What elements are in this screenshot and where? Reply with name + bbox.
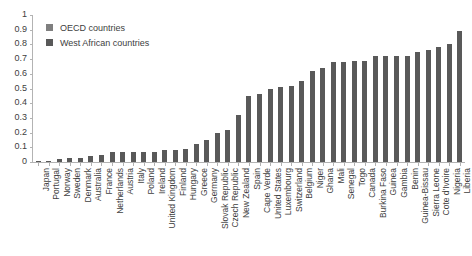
bar-slot <box>286 15 297 162</box>
bar[interactable] <box>394 56 399 162</box>
bar-slot <box>191 15 202 162</box>
bar[interactable] <box>131 152 136 162</box>
bar[interactable] <box>268 89 273 163</box>
x-axis-tick-mark <box>91 163 92 166</box>
bar[interactable] <box>341 62 346 162</box>
x-axis-tick-label: Sweden <box>73 168 82 199</box>
x-axis-tick-mark <box>333 163 334 166</box>
x-axis-tick-mark <box>70 163 71 166</box>
bar[interactable] <box>120 152 125 162</box>
x-axis-tick-label: Niger <box>316 168 325 188</box>
y-axis-tick-label: 0.1 <box>14 141 27 152</box>
x-axis-tick-label: Slovak Republic <box>221 168 230 229</box>
bar-slot <box>223 15 234 162</box>
bar[interactable] <box>257 94 262 162</box>
bar[interactable] <box>447 44 452 162</box>
x-axis-tick-mark <box>38 163 39 166</box>
x-axis-tick-label: Spain <box>253 168 262 190</box>
legend-item[interactable]: OECD countries <box>46 20 149 35</box>
x-axis-tick-label: Guinea <box>389 168 398 195</box>
bar-slot <box>423 15 434 162</box>
legend-swatch-icon <box>46 24 53 31</box>
x-axis-tick-label: Mali <box>337 168 346 184</box>
bar[interactable] <box>373 56 378 162</box>
x-axis-tick-mark <box>439 163 440 166</box>
x-axis-tick-label: Sierra Leone <box>432 168 441 217</box>
bar[interactable] <box>278 87 283 162</box>
x-axis-tick-label: Guinea-Bissau <box>421 168 430 224</box>
x-axis-tick-mark <box>281 163 282 166</box>
bar[interactable] <box>436 47 441 162</box>
x-axis-tick-label: United States <box>274 168 283 219</box>
x-axis-tick-label: Nigeria <box>453 168 462 195</box>
x-axis-tick-mark <box>365 163 366 166</box>
bar[interactable] <box>225 130 230 162</box>
x-axis-tick-mark <box>312 163 313 166</box>
bar[interactable] <box>46 161 51 162</box>
y-axis-tick-label: 0.2 <box>14 127 27 138</box>
bar[interactable] <box>362 61 367 162</box>
bar[interactable] <box>36 161 41 162</box>
x-axis-tick-label: New Zealand <box>242 168 251 218</box>
bar[interactable] <box>236 115 241 162</box>
legend-swatch-icon <box>46 39 53 46</box>
bar[interactable] <box>289 86 294 162</box>
y-axis-tick-label: 1 <box>22 9 27 20</box>
bar[interactable] <box>352 61 357 162</box>
y-axis-tick-label: 0.9 <box>14 24 27 35</box>
x-axis-tick-mark <box>354 163 355 166</box>
x-axis-tick-mark <box>165 163 166 166</box>
x-axis-tick-label: United Kingdom <box>168 168 177 228</box>
x-axis-tick-label: Portugal <box>52 168 61 200</box>
bar[interactable] <box>426 50 431 162</box>
bar[interactable] <box>204 140 209 162</box>
y-axis-tick-label: 0.5 <box>14 83 27 94</box>
x-axis-tick-mark <box>270 163 271 166</box>
x-axis-tick-mark <box>186 163 187 166</box>
bar[interactable] <box>405 56 410 162</box>
x-axis-tick-label: Liberia <box>463 168 472 194</box>
bar[interactable] <box>331 62 336 162</box>
x-axis-tick-mark <box>375 163 376 166</box>
bar[interactable] <box>141 152 146 162</box>
bar[interactable] <box>183 149 188 162</box>
y-axis-tick-label: 0.7 <box>14 53 27 64</box>
x-axis-tick-label: Australia <box>94 168 103 201</box>
x-axis-tick-mark <box>407 163 408 166</box>
bar-slot <box>254 15 265 162</box>
x-axis-tick-mark <box>123 163 124 166</box>
bar[interactable] <box>383 56 388 162</box>
x-axis-tick-label: Netherlands <box>116 168 125 214</box>
bar[interactable] <box>88 156 93 162</box>
bar[interactable] <box>99 155 104 162</box>
x-axis-tick-mark <box>101 163 102 166</box>
x-axis-tick-mark <box>449 163 450 166</box>
bar-slot <box>317 15 328 162</box>
bar[interactable] <box>78 158 83 162</box>
bar[interactable] <box>310 71 315 162</box>
bar[interactable] <box>162 150 167 162</box>
bar[interactable] <box>215 133 220 162</box>
bar-slot <box>328 15 339 162</box>
x-axis-tick-label: France <box>105 168 114 194</box>
x-axis-tick-mark <box>418 163 419 166</box>
bar[interactable] <box>110 152 115 162</box>
x-axis-tick-label: Cape Verde <box>263 168 272 213</box>
x-axis-tick-mark <box>217 163 218 166</box>
legend-item[interactable]: West African countries <box>46 35 149 50</box>
bar-slot <box>391 15 402 162</box>
bar[interactable] <box>415 52 420 162</box>
bar[interactable] <box>57 159 62 162</box>
bar[interactable] <box>246 96 251 162</box>
bar[interactable] <box>67 158 72 162</box>
bar[interactable] <box>173 150 178 162</box>
bar[interactable] <box>457 31 462 162</box>
x-axis-tick-label: Poland <box>147 168 156 194</box>
x-axis-tick-mark <box>207 163 208 166</box>
x-axis-tick-label: Canada <box>368 168 377 198</box>
bar[interactable] <box>152 152 157 162</box>
bar[interactable] <box>299 81 304 162</box>
bar[interactable] <box>320 68 325 162</box>
x-axis-tick-mark <box>112 163 113 166</box>
bar[interactable] <box>194 144 199 162</box>
